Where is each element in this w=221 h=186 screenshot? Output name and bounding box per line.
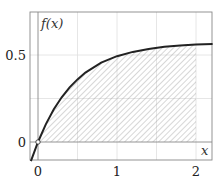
x-axis-label: x (201, 143, 209, 158)
function-plot: f(x) x 0.5 0 0 1 2 (0, 0, 221, 186)
x-tick-label-2: 2 (192, 164, 200, 179)
x-tick-label-1: 1 (113, 164, 121, 179)
x-tick-label-0: 0 (34, 164, 42, 179)
origin-marker (36, 140, 40, 144)
y-axis-label: f(x) (40, 16, 63, 31)
shaded-area-under-curve (38, 45, 196, 142)
y-tick-label-0: 0 (18, 135, 26, 150)
y-tick-label-0.5: 0.5 (5, 48, 26, 63)
